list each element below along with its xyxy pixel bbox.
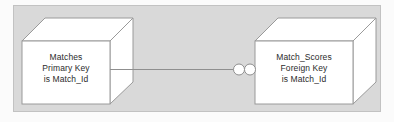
connector-marker-circle-2: [245, 64, 256, 75]
diagram-vector-layer: [0, 0, 394, 122]
match-scores-entity-cube[interactable]: [255, 18, 376, 104]
matches-cube-front-face: [22, 41, 110, 104]
matches-entity-cube[interactable]: [22, 18, 133, 104]
connector-marker-circle-1: [234, 64, 245, 75]
match-scores-cube-front-face: [255, 41, 353, 104]
diagram-canvas: Matches Primary Key is Match_Id Match_Sc…: [0, 0, 394, 122]
